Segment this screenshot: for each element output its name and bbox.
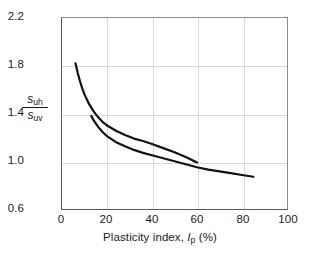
y-axis-label-denominator: suv — [14, 109, 56, 122]
x-axis-label-subscript: p — [191, 235, 196, 245]
numerator-subscript: uh — [33, 97, 42, 107]
y-tick-label: 1.8 — [0, 59, 24, 71]
x-tick-label: 60 — [177, 213, 217, 225]
x-axis-label: Plasticity index, Ip (%) — [0, 231, 320, 245]
chart-figure: 2.2 1.8 1.4 1.0 0.6 0 20 40 60 80 100 su… — [0, 0, 320, 257]
plot-area — [61, 17, 288, 210]
x-axis-label-units: (%) — [195, 231, 216, 243]
denominator-subscript: uv — [34, 113, 43, 123]
series-line-upper-curve — [76, 63, 198, 162]
denominator-symbol: s — [28, 108, 34, 122]
x-tick-label: 40 — [132, 213, 172, 225]
x-tick-label: 0 — [41, 213, 81, 225]
y-axis-label-numerator: suh — [14, 93, 56, 106]
fraction-bar — [22, 107, 48, 108]
y-axis-label: suh suv — [14, 93, 56, 122]
y-tick-label: 0.6 — [0, 203, 24, 215]
curves-svg — [62, 18, 287, 209]
y-tick-label: 1.0 — [0, 155, 24, 167]
x-axis-label-text: Plasticity index, — [103, 231, 187, 243]
x-tick-label: 20 — [86, 213, 126, 225]
x-tick-label: 100 — [268, 213, 308, 225]
y-tick-label: 2.2 — [0, 11, 24, 23]
series-line-lower-curve — [91, 116, 253, 177]
x-tick-label: 80 — [223, 213, 263, 225]
